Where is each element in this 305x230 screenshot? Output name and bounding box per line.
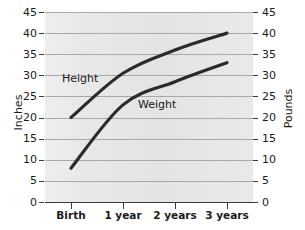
x-axis-tick [71,202,72,209]
left-axis-tick-label: 25 [23,91,37,102]
left-axis-title: Inches [13,83,24,143]
axis-baseline [45,202,253,203]
right-axis-tick [253,181,258,182]
left-axis-tick [39,160,44,161]
x-axis-tick-label: Birth [56,210,85,221]
right-axis-tick [253,75,258,76]
left-axis-tick [39,139,44,140]
right-axis-tick [253,12,258,13]
right-axis-tick-label: 25 [262,91,276,102]
right-axis-tick-label: 30 [262,70,276,81]
left-axis-tick-label: 40 [23,28,37,39]
left-axis-tick-label: 10 [23,154,37,165]
right-axis-tick-label: 10 [262,154,276,165]
right-axis-tick-label: 35 [262,49,276,60]
right-axis-tick [253,202,258,203]
x-axis-tick [175,202,176,209]
left-axis-tick-label: 20 [23,112,37,123]
left-axis-tick-label: 35 [23,49,37,60]
left-axis-tick-label: 15 [23,133,37,144]
left-axis-tick [39,12,44,13]
right-axis-tick [253,33,258,34]
right-axis-spine [253,12,254,202]
weight-series-label: Weight [138,99,176,110]
left-axis-tick [39,202,44,203]
left-axis-tick [39,54,44,55]
left-axis-tick-label: 0 [30,197,37,208]
left-axis-tick-label: 30 [23,70,37,81]
left-axis-tick [39,181,44,182]
right-axis-tick-label: 20 [262,112,276,123]
x-axis-tick [123,202,124,209]
x-axis-tick [227,202,228,209]
right-axis-tick-label: 15 [262,133,276,144]
x-axis-tick-label: 2 years [153,210,196,221]
growth-chart: 051015202530354045 051015202530354045 Bi… [0,0,305,230]
right-axis-tick-label: 40 [262,28,276,39]
right-axis-tick-label: 45 [262,7,276,18]
left-axis-tick-label: 5 [30,175,37,186]
right-axis-tick [253,96,258,97]
right-axis-tick [253,118,258,119]
x-axis-tick-label: 1 year [104,210,141,221]
right-axis-tick [253,160,258,161]
left-axis-tick [39,118,44,119]
x-axis-tick-label: 3 years [205,210,248,221]
right-axis-tick-label: 5 [262,175,269,186]
left-axis-tick [39,33,44,34]
left-axis-tick-label: 45 [23,7,37,18]
right-axis-tick [253,139,258,140]
right-axis-tick [253,54,258,55]
right-axis-title: Pounds [283,79,294,139]
right-axis-tick-label: 0 [262,197,269,208]
height-series-label: Height [62,73,98,84]
left-axis-tick [39,96,44,97]
left-axis-tick [39,75,44,76]
